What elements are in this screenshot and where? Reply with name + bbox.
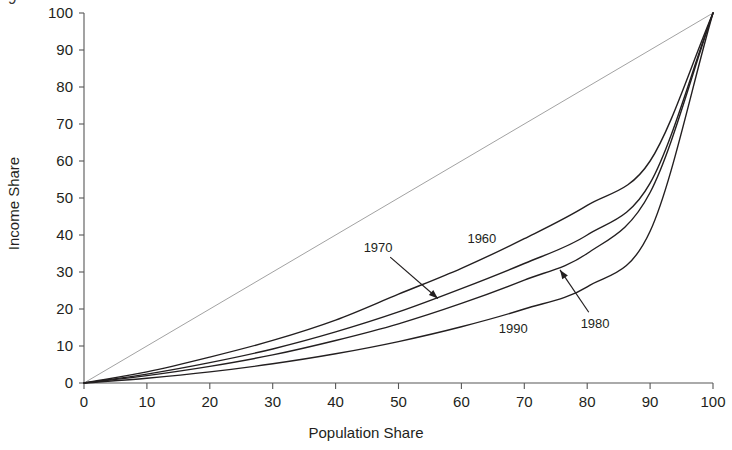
y-tick-label: 70: [39, 115, 73, 132]
y-tick-label: 50: [39, 189, 73, 206]
y-tick-label: 0: [39, 374, 73, 391]
y-tick-label: 40: [39, 226, 73, 243]
x-tick-label: 70: [504, 393, 544, 410]
x-tick-label: 20: [190, 393, 230, 410]
lorenz-curve-figure: 9 01020304050607080901000102030405060708…: [0, 0, 732, 450]
x-tick-label: 30: [253, 393, 293, 410]
annotation-arrow-head-1980: [560, 270, 568, 279]
series-line-equality-line: [84, 13, 713, 383]
y-tick-label: 20: [39, 300, 73, 317]
y-tick-label: 90: [39, 41, 73, 58]
series-annotation-label-1990: 1990: [499, 321, 528, 336]
y-tick-label: 80: [39, 78, 73, 95]
chart-canvas: [0, 0, 732, 450]
annotation-arrow-line-1970: [390, 257, 438, 298]
x-tick-label: 100: [693, 393, 732, 410]
x-tick-label: 80: [567, 393, 607, 410]
y-axis-title: Income Share: [5, 144, 22, 264]
x-tick-label: 60: [441, 393, 481, 410]
y-tick-label: 100: [39, 4, 73, 21]
x-tick-label: 10: [127, 393, 167, 410]
y-tick-label: 60: [39, 152, 73, 169]
y-tick-label: 30: [39, 263, 73, 280]
x-axis-title: Population Share: [0, 424, 732, 441]
x-tick-label: 50: [379, 393, 419, 410]
series-annotation-label-1980: 1980: [581, 316, 610, 331]
y-tick-label: 10: [39, 337, 73, 354]
series-annotation-label-1960: 1960: [467, 231, 496, 246]
series-annotation-label-1970: 1970: [364, 240, 393, 255]
series-group: [84, 13, 713, 383]
x-tick-label: 90: [630, 393, 670, 410]
x-tick-label: 40: [316, 393, 356, 410]
x-tick-label: 0: [64, 393, 104, 410]
